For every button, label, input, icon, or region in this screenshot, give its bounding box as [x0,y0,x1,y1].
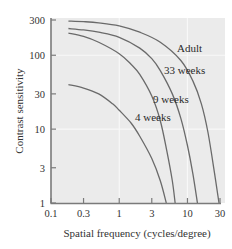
x-tick-label: 0.3 [77,208,90,219]
x-tick-label: 0.1 [44,208,57,219]
series-label-4-weeks: 4 weeks [135,111,171,123]
series-label-adult: Adult [177,42,202,54]
series-label-9-weeks: 9 weeks [153,93,189,105]
x-axis-title: Spatial frequency (cycles/degree) [63,227,211,240]
series-label-33-weeks: 33 weeks [164,64,205,76]
contrast-sensitivity-chart: 131030100300 0.10.3131030 Contrast sensi… [0,0,232,249]
y-axis-title: Contrast sensitivity [13,68,25,154]
y-tick-label: 3 [40,163,45,174]
x-tick-label: 1 [117,208,122,219]
y-tick-label: 10 [35,124,46,135]
y-tick-label: 100 [29,50,45,61]
x-tick-label: 10 [182,208,193,219]
x-tick-label: 30 [215,208,226,219]
y-tick-label: 30 [35,89,46,100]
y-tick-label: 300 [29,15,45,26]
x-tick-label: 3 [149,208,154,219]
